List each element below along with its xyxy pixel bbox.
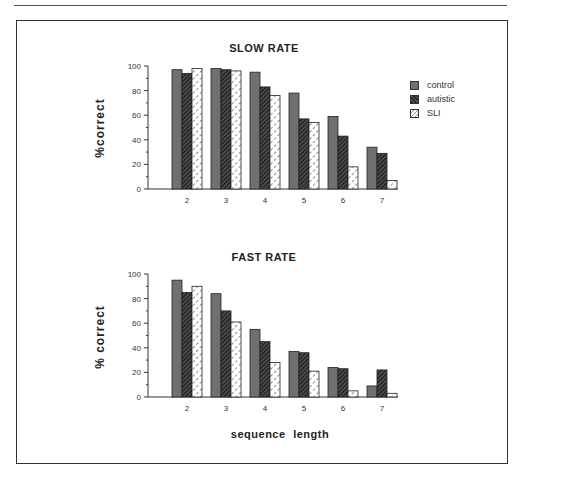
bar-autistic [299, 353, 309, 397]
legend: control autistic SLI [410, 78, 455, 120]
autistic-swatch-icon [410, 95, 419, 104]
legend-item-autistic: autistic [410, 92, 455, 106]
x-axis-label: sequence length [180, 428, 380, 440]
control-swatch-icon [410, 81, 419, 90]
svg-text:0: 0 [137, 393, 142, 402]
bar-control [289, 351, 299, 397]
bar-control [250, 329, 260, 397]
bar-autistic [377, 370, 387, 397]
legend-label: SLI [427, 108, 441, 118]
svg-text:4: 4 [263, 404, 268, 413]
svg-text:100: 100 [128, 270, 142, 279]
svg-text:3: 3 [224, 404, 229, 413]
bar-SLI [309, 371, 319, 397]
bar-autistic [260, 342, 270, 397]
legend-item-sli: SLI [410, 106, 455, 120]
bar-control [367, 386, 377, 397]
bar-autistic [182, 292, 192, 397]
legend-item-control: control [410, 78, 455, 92]
legend-label: control [427, 80, 454, 90]
legend-label: autistic [427, 94, 455, 104]
svg-text:40: 40 [132, 344, 141, 353]
fast-rate-chart: 020406080100234567 [0, 0, 568, 481]
bar-SLI [348, 391, 358, 397]
sli-swatch-icon [410, 109, 419, 118]
svg-text:20: 20 [132, 368, 141, 377]
bar-SLI [387, 393, 397, 397]
bar-control [328, 367, 338, 397]
bar-control [211, 294, 221, 397]
bar-SLI [270, 363, 280, 397]
bar-autistic [338, 369, 348, 397]
bar-control [172, 280, 182, 397]
bar-SLI [231, 322, 241, 397]
svg-text:2: 2 [185, 404, 190, 413]
bar-autistic [221, 311, 231, 397]
bar-SLI [192, 286, 202, 397]
svg-text:6: 6 [341, 404, 346, 413]
svg-text:5: 5 [302, 404, 307, 413]
svg-text:7: 7 [380, 404, 385, 413]
svg-text:60: 60 [132, 319, 141, 328]
svg-text:80: 80 [132, 295, 141, 304]
